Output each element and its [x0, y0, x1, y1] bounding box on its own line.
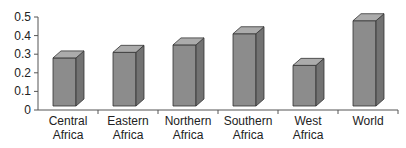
bar-side [256, 27, 264, 106]
bar [53, 51, 84, 106]
y-tick-label: 0.2 [14, 66, 31, 80]
bar-front [53, 58, 76, 106]
bar-chart: 00.10.20.30.40.5 CentralAfricaEasternAfr… [0, 0, 406, 148]
category-label: Africa [233, 128, 264, 142]
bar-front [113, 52, 136, 106]
category-label: Central [49, 114, 88, 128]
y-tick-label: 0.5 [14, 10, 31, 24]
bar-side [316, 58, 324, 106]
bar-front [233, 34, 256, 106]
bar [293, 58, 324, 106]
y-tick-label: 0.1 [14, 84, 31, 98]
y-tick-label: 0.3 [14, 47, 31, 61]
category-label: Africa [173, 128, 204, 142]
x-axis [38, 110, 398, 114]
category-label: Northern [165, 114, 212, 128]
bar-front [353, 21, 376, 106]
category-labels: CentralAfricaEasternAfricaNorthernAfrica… [49, 114, 384, 142]
bars [53, 14, 384, 106]
bar-side [76, 51, 84, 106]
category-label: Africa [53, 128, 84, 142]
bar-front [293, 65, 316, 106]
category-label: Africa [113, 128, 144, 142]
category-label: West [294, 114, 322, 128]
bar [233, 27, 264, 106]
bar [353, 14, 384, 106]
bar-side [196, 38, 204, 106]
y-tick-label: 0.4 [14, 29, 31, 43]
bar [113, 45, 144, 106]
category-label: Africa [293, 128, 324, 142]
category-label: Southern [224, 114, 273, 128]
bar [173, 38, 204, 106]
bar-front [173, 45, 196, 106]
y-axis: 00.10.20.30.40.5 [14, 10, 38, 117]
bar-side [136, 45, 144, 106]
y-tick-label: 0 [24, 103, 31, 117]
category-label: World [352, 114, 383, 128]
bar-side [376, 14, 384, 106]
category-label: Eastern [107, 114, 148, 128]
